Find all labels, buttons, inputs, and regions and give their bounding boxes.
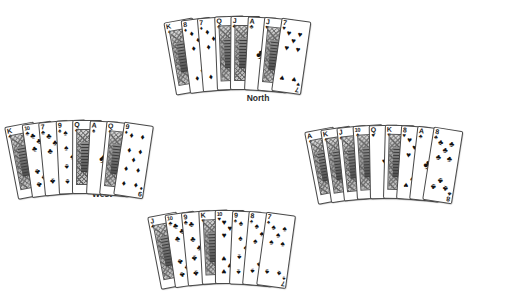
card-pip: ♣ [188, 220, 194, 228]
card-pip: ♠ [65, 177, 70, 185]
card-pip: ♥ [283, 44, 289, 53]
card-pip: ♥ [285, 29, 291, 38]
card-pip: ♥ [279, 73, 285, 82]
card-pip: ♦ [130, 156, 135, 165]
card-pip: ♦ [137, 148, 142, 157]
card-pip: ♦ [206, 43, 211, 51]
card-pip: ♣ [446, 155, 452, 164]
card-pip: ♣ [190, 235, 196, 243]
card-pip: ♠ [250, 266, 255, 274]
card-pip: ♦ [121, 179, 126, 188]
card-pip: ♠ [237, 253, 242, 261]
card-pip: ♣ [50, 176, 56, 184]
card-pip: ♣ [449, 140, 455, 149]
card-pip: ♣ [193, 268, 199, 276]
card-pip: ♥ [222, 254, 227, 262]
hand-south: J♣J♣10♣10♣♣♣♣♣♣♣♣♣♣♣9♣9♣♣♣♣♣♣♣♣♣♣K♥K♥10♥… [155, 196, 337, 288]
card-pip: ♠ [279, 240, 284, 249]
card-pip: ♦ [139, 134, 144, 143]
card-pip: ♠ [268, 238, 273, 247]
card-pip: ♦ [132, 181, 137, 190]
card-pip: ♣ [435, 153, 441, 162]
card-pip: ♣ [177, 256, 183, 265]
card-pip: ♣ [47, 147, 53, 155]
card-pip: ♠ [275, 231, 280, 240]
card-pip: ♣ [36, 180, 42, 189]
card-pip: ♦ [205, 28, 210, 36]
card-pip: ♥ [222, 219, 227, 227]
card-pip: ♦ [195, 73, 200, 81]
card-pip: ♥ [407, 136, 412, 144]
hand-label-north: North [208, 93, 308, 103]
card-pip: ♦ [126, 146, 131, 155]
card-pip: ♠ [282, 225, 287, 234]
card-pip: ♠ [64, 163, 69, 171]
card-pip: ♠ [264, 267, 269, 276]
card-pip: ♠ [236, 267, 241, 275]
card-pip: ♠ [253, 237, 258, 245]
card-pip: ♠ [238, 234, 243, 242]
card-pip: ♥ [290, 75, 296, 84]
hand-west-cards: K♣K♣10♣10♣♣♣♣♣♣♣♣♣♣♣7♣7♣♣♣♣♣♣♣♣9♠9♠♠♠♠♠♠… [12, 106, 187, 198]
bridge-deal-diagram: K♦K♦8♦8♦♦♦♦♦♦♦♦♦7♦7♦♦♦♦♦♦♦♦Q♣Q♣J♣J♣A♣A♣♣… [0, 0, 505, 300]
card-pip: ♣ [192, 253, 198, 261]
card-pip: ♦ [135, 166, 140, 175]
card-pip: ♣ [442, 184, 448, 193]
card-pip: ♥ [222, 268, 227, 276]
card-pip: ♠ [63, 144, 68, 152]
card-pip: ♣ [172, 221, 178, 230]
card-pip: ♠ [275, 269, 280, 278]
card-pip: ♥ [222, 232, 227, 240]
card-pip: ♣ [46, 132, 52, 140]
card-pip: ♣ [29, 131, 35, 140]
card-pip: ♥ [297, 31, 303, 40]
card-pip: ♠ [238, 220, 243, 228]
card-pip: ♦ [123, 165, 128, 174]
card-pip: ♣ [431, 182, 437, 191]
card-pip: ♥ [404, 180, 409, 188]
card-pip: ♣ [179, 270, 185, 279]
card-pip: ♠ [254, 222, 259, 230]
card-pip: ♦ [191, 44, 196, 52]
card-pip: ♦ [209, 72, 214, 80]
card-pip: ♠ [270, 223, 275, 232]
card-pip: ♦ [189, 29, 194, 37]
card-pip: ♥ [406, 151, 411, 159]
card-pip: ♥ [290, 37, 296, 46]
hand-north: K♦K♦8♦8♦♦♦♦♦♦♦♦♦7♦7♦♦♦♦♦♦♦♦Q♣Q♣J♣J♣A♣A♣♣… [172, 2, 347, 94]
card-pip: ♠ [63, 130, 68, 138]
hand-east: A♦A♦K♠K♠J♠J♠10♠10♠Q♥Q♥♥K♥K♥8♥8♥♥♥♥♥♥♥♥♥A… [314, 113, 492, 205]
card-pip: ♥ [294, 46, 300, 55]
hand-west: K♣K♣10♣10♣♣♣♣♣♣♣♣♣♣♣7♣7♣♣♣♣♣♣♣♣9♠9♠♠♠♠♠♠… [12, 106, 187, 198]
hand-north-cards: K♦K♦8♦8♦♦♦♦♦♦♦♦♦7♦7♦♦♦♦♦♦♦♦Q♣Q♣J♣J♣A♣A♣♣… [172, 2, 347, 94]
card-pip: ♦ [128, 132, 133, 141]
hand-south-cards: J♣J♣10♣10♣♣♣♣♣♣♣♣♣♣♣9♣9♣♣♣♣♣♣♣♣♣♣K♥K♥10♥… [155, 196, 337, 288]
hand-east-cards: A♦A♦K♠K♠J♠J♠10♠10♠Q♥Q♥♥K♥K♥8♥8♥♥♥♥♥♥♥♥♥A… [314, 113, 492, 205]
card-pip: ♣ [34, 166, 40, 175]
